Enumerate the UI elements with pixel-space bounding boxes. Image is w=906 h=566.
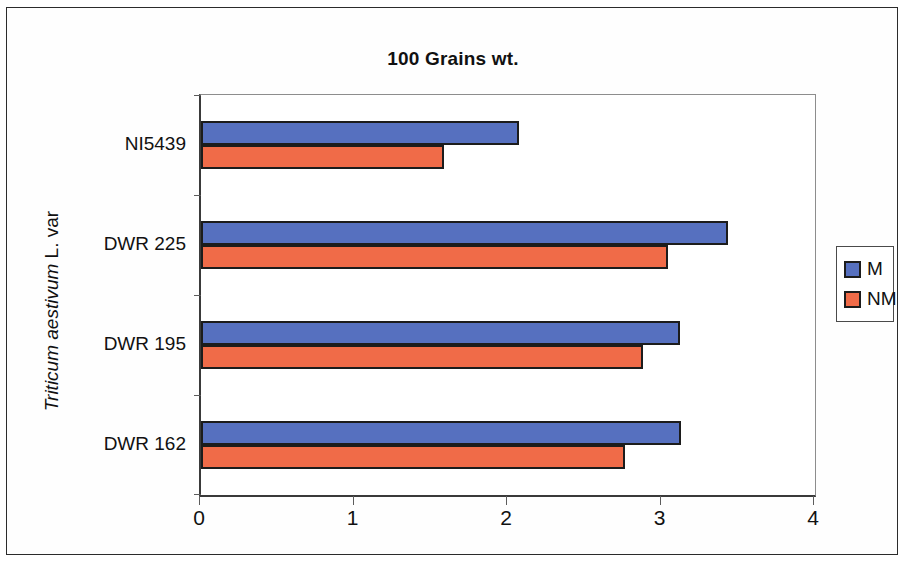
bar-nm-ni5439 bbox=[201, 145, 444, 169]
legend: M NM bbox=[836, 246, 894, 322]
plot-area bbox=[199, 94, 816, 497]
y-tick-label: NI5439 bbox=[60, 94, 192, 194]
y-axis-tick bbox=[194, 494, 201, 495]
x-tick-label: 0 bbox=[193, 506, 205, 530]
bar-m-ni5439 bbox=[201, 121, 519, 145]
x-tick-label: 3 bbox=[654, 506, 666, 530]
bar-group bbox=[201, 195, 815, 295]
legend-swatch-m-icon bbox=[844, 261, 861, 278]
y-axis-tick bbox=[194, 295, 201, 296]
x-axis-tick-labels: 01234 bbox=[199, 506, 813, 536]
scan-page-edge bbox=[0, 559, 906, 566]
x-tick-label: 2 bbox=[500, 506, 512, 530]
y-tick-label: DWR 225 bbox=[60, 194, 192, 294]
bar-m-dwr-225 bbox=[201, 221, 728, 245]
bar-nm-dwr-162 bbox=[201, 445, 625, 469]
legend-item-nm: NM bbox=[844, 284, 887, 314]
x-axis-tick bbox=[353, 496, 354, 505]
x-axis-tick bbox=[199, 496, 200, 505]
bar-nm-dwr-225 bbox=[201, 245, 668, 269]
bar-group bbox=[201, 295, 815, 395]
legend-label-m: M bbox=[867, 258, 883, 280]
bar-nm-dwr-195 bbox=[201, 345, 643, 369]
y-axis-tick bbox=[194, 395, 201, 396]
x-axis-tick bbox=[660, 496, 661, 505]
x-axis-tick bbox=[813, 496, 814, 505]
x-axis-ticks bbox=[199, 496, 813, 505]
bar-m-dwr-195 bbox=[201, 321, 680, 345]
legend-label-nm: NM bbox=[867, 288, 897, 310]
bar-group bbox=[201, 95, 815, 195]
legend-swatch-nm-icon bbox=[844, 291, 861, 308]
x-axis-tick bbox=[506, 496, 507, 505]
y-axis-title-italic: Triticum aestivum bbox=[41, 264, 62, 411]
y-axis-tick bbox=[194, 195, 201, 196]
bar-m-dwr-162 bbox=[201, 421, 681, 445]
y-tick-label: DWR 195 bbox=[60, 294, 192, 394]
y-tick-label: DWR 162 bbox=[60, 394, 192, 494]
legend-item-m: M bbox=[844, 254, 887, 284]
y-axis-tick-labels: NI5439 DWR 225 DWR 195 DWR 162 bbox=[60, 94, 192, 494]
x-tick-label: 1 bbox=[347, 506, 359, 530]
chart-title: 100 Grains wt. bbox=[0, 48, 906, 70]
bar-groups bbox=[201, 95, 815, 495]
y-axis-title-roman: L. var bbox=[41, 211, 62, 264]
bar-group bbox=[201, 395, 815, 495]
chart-screenshot: 100 Grains wt. Triticum aestivum L. var … bbox=[0, 0, 906, 566]
y-axis-tick bbox=[194, 95, 201, 96]
x-tick-label: 4 bbox=[807, 506, 819, 530]
